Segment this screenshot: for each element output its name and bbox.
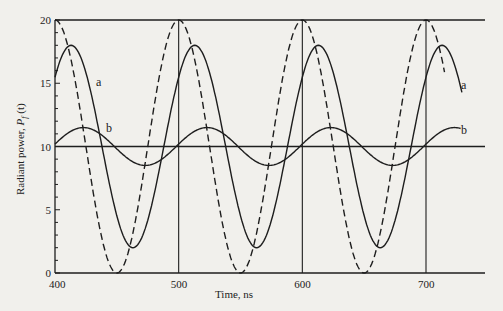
curve-label-b: b xyxy=(106,121,112,135)
radiant-power-chart: 05101520400500600700 abab Time, ns Radia… xyxy=(0,0,503,311)
labels: abab xyxy=(96,75,467,137)
x-tick-label: 600 xyxy=(294,278,311,290)
x-tick-label: 400 xyxy=(49,278,66,290)
curve-label-a: a xyxy=(461,78,467,92)
grid-lines xyxy=(55,20,485,273)
x-tick-label: 700 xyxy=(418,278,435,290)
x-axis-title: Time, ns xyxy=(215,288,253,300)
y-tick-label: 15 xyxy=(40,77,52,89)
curve-label-a: a xyxy=(96,75,102,89)
y-tick-label: 5 xyxy=(46,204,52,216)
x-tick-label: 500 xyxy=(171,278,188,290)
y-tick-label: 10 xyxy=(40,141,52,153)
y-axis-title: Radiant power, Pf (t) xyxy=(14,103,29,195)
curve-label-b: b xyxy=(461,123,467,137)
y-tick-label: 20 xyxy=(40,14,52,26)
